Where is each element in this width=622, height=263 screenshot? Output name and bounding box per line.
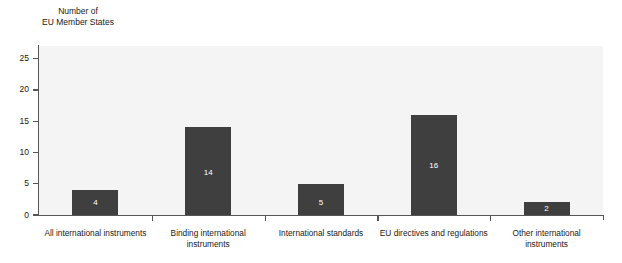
y-tick-label: 25 — [3, 54, 29, 63]
y-tick-5 — [33, 183, 39, 184]
x-separator-tick — [265, 216, 266, 221]
x-separator-tick — [490, 216, 491, 221]
category-label: EU directives and regulations — [379, 228, 488, 239]
y-axis-line — [38, 45, 39, 216]
x-axis-line — [38, 215, 604, 216]
y-tick-label: 0 — [3, 211, 29, 220]
category-label: Other international instruments — [492, 228, 601, 249]
category-label: Binding international instruments — [154, 228, 263, 249]
y-tick-15 — [33, 121, 39, 122]
y-tick-label: 5 — [3, 179, 29, 188]
x-separator-tick — [377, 216, 378, 221]
y-tick-label: 20 — [3, 85, 29, 94]
bar-value-label: 5 — [298, 198, 344, 207]
bar-chart: Number of EU Member States 0510152025 41… — [0, 0, 622, 263]
y-tick-20 — [33, 89, 39, 90]
category-label: All international instruments — [41, 228, 150, 239]
y-tick-10 — [33, 152, 39, 153]
x-separator-tick — [152, 216, 153, 221]
bar-value-label: 4 — [72, 198, 118, 207]
x-axis-end-tick — [603, 215, 604, 220]
category-label: International standards — [267, 228, 376, 239]
y-tick-label: 15 — [3, 117, 29, 126]
y-tick-25 — [33, 58, 39, 59]
y-axis-title: Number of EU Member States — [18, 6, 138, 28]
bar-value-label: 2 — [524, 204, 570, 213]
bar-value-label: 14 — [185, 168, 231, 177]
y-tick-label: 10 — [3, 148, 29, 157]
bar-value-label: 16 — [411, 161, 457, 170]
y-tick-0 — [33, 214, 39, 215]
